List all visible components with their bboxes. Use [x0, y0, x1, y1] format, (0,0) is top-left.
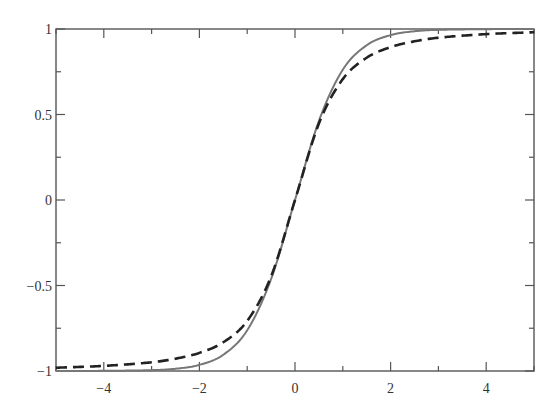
y-tick-label: 0.5	[35, 108, 53, 123]
y-tick-label: −0.5	[27, 279, 52, 294]
x-tick-label: 0	[292, 381, 299, 396]
y-tick-label: 1	[45, 22, 52, 37]
x-tick-label: 4	[483, 381, 490, 396]
x-tick-label: −4	[96, 381, 111, 396]
dashed-curve	[56, 32, 534, 368]
y-tick-label: −1	[37, 364, 52, 379]
series-lines	[56, 29, 534, 371]
y-tick-label: 0	[45, 193, 52, 208]
line-chart: −4−2024−1−0.500.51	[0, 0, 560, 405]
x-tick-label: −2	[192, 381, 207, 396]
tick-labels: −4−2024−1−0.500.51	[27, 22, 490, 396]
x-tick-label: 2	[387, 381, 394, 396]
